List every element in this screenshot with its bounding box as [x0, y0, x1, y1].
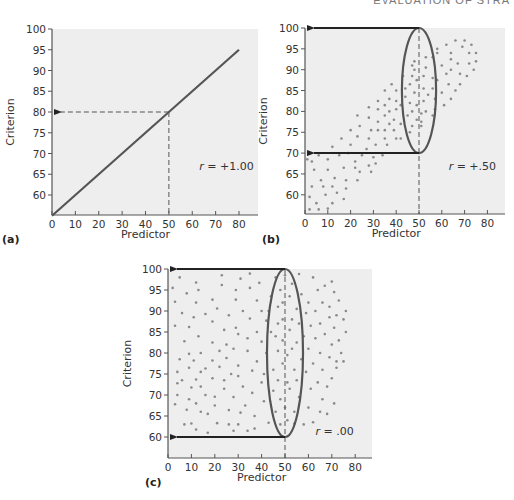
data-point	[249, 272, 252, 275]
data-point	[354, 166, 357, 169]
data-point	[171, 287, 174, 290]
data-point	[188, 326, 191, 329]
y-tick-label: 75	[286, 126, 299, 138]
data-point	[211, 298, 214, 301]
x-tick-label: 10	[69, 218, 82, 230]
data-point	[211, 359, 214, 362]
data-point	[356, 179, 359, 182]
data-point	[354, 160, 357, 163]
data-point	[223, 387, 226, 390]
data-point	[393, 118, 396, 121]
data-point	[356, 114, 359, 117]
x-tick-label: 60	[186, 218, 199, 230]
data-point	[431, 77, 434, 80]
data-point	[381, 154, 384, 157]
data-point	[333, 402, 336, 405]
data-point	[456, 62, 459, 65]
data-point	[349, 143, 352, 146]
y-tick-label: 80	[286, 105, 299, 117]
data-point	[214, 404, 217, 407]
data-point	[319, 352, 322, 355]
data-point	[188, 366, 191, 369]
data-point	[181, 379, 184, 382]
data-point	[218, 350, 221, 353]
data-point	[317, 208, 320, 211]
data-point	[365, 148, 368, 151]
data-point	[267, 421, 270, 424]
x-tick-label: 80	[349, 461, 362, 473]
data-point	[321, 369, 324, 372]
data-point	[242, 385, 245, 388]
data-point	[321, 398, 324, 401]
data-point	[295, 308, 298, 311]
data-point	[211, 320, 214, 323]
data-point	[256, 331, 259, 334]
x-tick-label: 20	[344, 217, 357, 229]
data-point	[228, 314, 231, 317]
data-point	[302, 423, 305, 426]
chart-panel-c: 606570758085909510001020304050607080Pred…	[121, 263, 372, 489]
data-point	[221, 274, 224, 277]
data-point	[445, 43, 448, 46]
data-point	[384, 89, 387, 92]
data-point	[335, 314, 338, 317]
data-point	[427, 93, 430, 96]
y-tick-label: 70	[149, 389, 162, 401]
data-point	[211, 341, 214, 344]
data-point	[361, 154, 364, 157]
data-point	[374, 143, 377, 146]
data-point	[331, 185, 334, 188]
data-point	[319, 411, 322, 414]
data-point	[260, 310, 263, 313]
x-tick-label: 70	[325, 461, 338, 473]
chart-panel-a: 606570758085909510001020304050607080Pred…	[2, 23, 258, 246]
data-point	[356, 135, 359, 138]
data-point	[277, 306, 280, 309]
data-point	[279, 423, 282, 426]
y-tick-label: 100	[26, 23, 46, 35]
data-point	[183, 340, 186, 343]
data-point	[204, 313, 207, 316]
data-point	[307, 301, 310, 304]
data-point	[228, 409, 231, 412]
data-point	[178, 276, 181, 279]
data-point	[235, 289, 238, 292]
data-point	[216, 307, 219, 310]
data-point	[199, 385, 202, 388]
data-point	[377, 121, 380, 124]
x-tick-label: 70	[209, 218, 222, 230]
data-point	[244, 404, 247, 407]
data-point	[459, 83, 462, 86]
data-point	[436, 52, 439, 55]
data-point	[281, 301, 284, 304]
data-point	[415, 118, 418, 121]
y-tick-label: 90	[286, 64, 299, 76]
x-tick-label: 60	[302, 461, 315, 473]
data-point	[368, 116, 371, 119]
data-point	[338, 339, 341, 342]
x-tick-label: 80	[481, 217, 494, 229]
data-point	[431, 87, 434, 90]
x-tick-label: 20	[208, 461, 221, 473]
data-point	[404, 96, 407, 99]
data-point	[274, 335, 277, 338]
data-point	[298, 322, 301, 325]
data-point	[413, 60, 416, 63]
data-point	[309, 324, 312, 327]
data-point	[342, 318, 345, 321]
data-point	[475, 52, 478, 55]
correlation-label: r = +.50	[449, 160, 496, 173]
data-point	[461, 45, 464, 48]
data-point	[272, 390, 275, 393]
data-point	[342, 166, 345, 169]
data-point	[188, 398, 191, 401]
data-point	[322, 185, 325, 188]
data-point	[331, 280, 334, 283]
data-point	[176, 394, 179, 397]
data-point	[316, 381, 319, 384]
data-point	[260, 381, 263, 384]
data-point	[372, 156, 375, 159]
data-point	[336, 191, 339, 194]
data-point	[328, 356, 331, 359]
data-point	[221, 284, 224, 287]
